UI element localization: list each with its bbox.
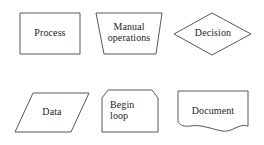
shapes-layer [0, 0, 264, 145]
shape-document-wavy [178, 91, 248, 131]
flowchart-symbols-diagram: Process Manual operations Decision Data … [0, 0, 264, 145]
shape-begin-loop-pentagon [102, 90, 158, 132]
shape-process-rectangle [20, 13, 80, 54]
shape-data-parallelogram [15, 93, 89, 132]
shape-manual-operations-trapezoid [96, 13, 162, 54]
shape-decision-diamond [174, 13, 251, 55]
